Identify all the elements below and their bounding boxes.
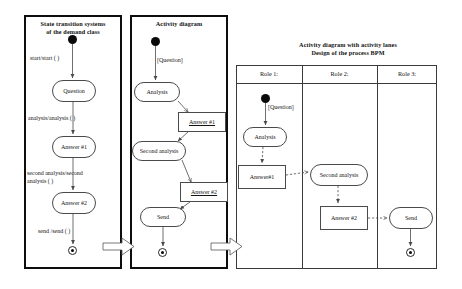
action-analysis-label: Analysis: [147, 89, 168, 96]
state-answer-1-label: Answer #1: [61, 144, 87, 151]
lane-header-rule: [236, 83, 437, 84]
object-answer-1-node-p3: Answer#1: [238, 165, 286, 189]
object-answer-1-label-p3: Answer#1: [250, 174, 275, 181]
panel-activity-diagram-title: Activity diagram: [132, 20, 226, 28]
transition-start-label: start/start ( ): [30, 55, 100, 63]
transition-analysis-label: analysis/analysis ( ): [28, 115, 108, 123]
object-answer-1-label: Answer #1: [189, 119, 215, 126]
final-state-node-p3: [406, 248, 415, 257]
final-state-node-p2: [158, 248, 167, 257]
action-send-node-p3: Send: [389, 207, 433, 229]
panel-state-transition-title: State transition systems of the demand c…: [26, 20, 120, 36]
object-answer-2-node-p2: Answer #2: [180, 182, 228, 202]
state-answer-2-node: Answer #2: [52, 192, 96, 214]
object-answer-2-label-p3: Answer #2: [331, 215, 357, 222]
action-analysis-node-p3: Analysis: [243, 127, 287, 147]
transition-second-analysis-label: second analysis/second analysis ( ): [27, 170, 99, 185]
transition-send-label: send /send ( ): [38, 228, 100, 236]
diagram-canvas: State transition systems of the demand c…: [0, 0, 462, 289]
object-answer-1-node-p2: Answer #1: [178, 112, 226, 132]
initial-state-node-p3: [261, 94, 270, 103]
guard-question-p3: [Question]: [268, 104, 294, 111]
lane-role-3-title: Role 3:: [377, 70, 437, 78]
lane-separator-1: [302, 65, 303, 269]
action-analysis-node-p2: Analysis: [134, 82, 180, 102]
state-question-node: Question: [52, 80, 96, 102]
lane-separator-2: [377, 65, 378, 269]
object-answer-2-node-p3: Answer #2: [320, 206, 368, 230]
lane-role-1-title: Role 1:: [236, 70, 302, 78]
action-second-analysis-label-p3: Second analysis: [320, 172, 359, 179]
action-send-label-p3: Send: [405, 215, 417, 222]
initial-state-node-p2: [151, 37, 160, 46]
action-send-label: Send: [157, 214, 169, 221]
initial-state-node-p1: [68, 35, 77, 44]
action-second-analysis-node-p2: Second analysis: [132, 141, 186, 161]
action-analysis-label-p3: Analysis: [255, 134, 276, 141]
action-second-analysis-label: Second analysis: [140, 148, 179, 155]
state-answer-1-node: Answer #1: [52, 136, 96, 158]
panel-swimlane-title: Activity diagram with activity lanes Des…: [248, 41, 448, 57]
action-second-analysis-node-p3: Second analysis: [310, 164, 368, 186]
lane-role-2-title: Role 2:: [302, 70, 377, 78]
state-answer-2-label: Answer #2: [61, 200, 87, 207]
final-state-node-p1: [68, 246, 77, 255]
state-question-label: Question: [63, 88, 85, 95]
guard-question-p2: [Question]: [157, 57, 183, 64]
action-send-node-p2: Send: [140, 207, 186, 227]
object-answer-2-label: Answer #2: [191, 189, 217, 196]
